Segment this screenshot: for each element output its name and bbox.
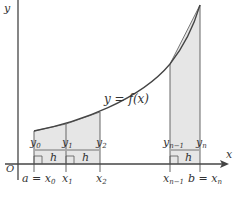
y-axis-label: y: [3, 2, 11, 15]
h-label-1: h: [50, 151, 57, 164]
h-label-n: h: [185, 151, 192, 164]
tick-xn: b = xn: [188, 172, 222, 186]
tick-x2: x2: [96, 172, 107, 186]
origin-label: O: [6, 163, 14, 174]
h-label-2: h: [82, 151, 89, 164]
ordinate-yn: yn: [195, 136, 207, 150]
tick-x1: x1: [62, 172, 73, 186]
tick-xn1: xn−1: [163, 172, 184, 186]
x-axis-label: x: [226, 148, 233, 161]
ordinate-y2: y2: [95, 136, 107, 150]
trapezoid-diagram: h h h y x O y = f(x) y0 y1 y2 yn−1 yn a …: [0, 0, 237, 197]
tick-x0: a = x0: [22, 172, 56, 186]
function-label: y = f(x): [103, 92, 149, 106]
